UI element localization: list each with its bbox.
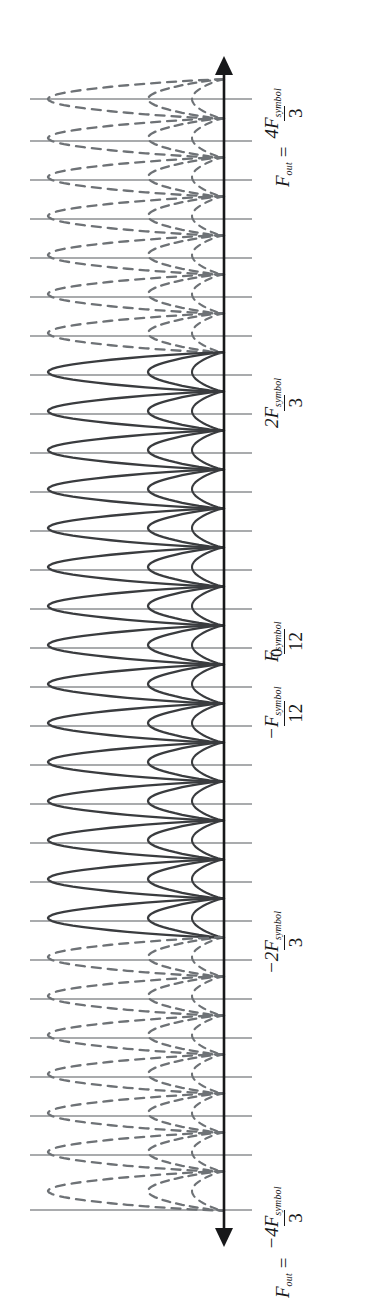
lobe-solid [148,781,224,821]
lobe-dashed [148,937,224,977]
lobe-solid [48,508,224,548]
axis-arrow-down-icon [215,1228,233,1247]
lobe-dashed [148,313,224,353]
lobe-solid [48,859,224,899]
lobe-solid [192,664,224,704]
lobe-solid [48,625,224,665]
lobe-solid [148,586,224,626]
lobe-dashed [48,313,224,353]
lobe-solid [192,352,224,392]
lobe-dashed [48,196,224,236]
lobe-solid [192,508,224,548]
lobe-solid [192,391,224,431]
lobe-solid [148,391,224,431]
lobe-dashed [48,118,224,158]
lobe-dashed [192,196,224,236]
curve-series-narrowest-lobes [192,79,224,1211]
lobe-dashed [148,274,224,314]
lobe-solid [48,781,224,821]
lobe-dashed [192,274,224,314]
lobe-dashed [192,1093,224,1133]
curve-series-wide-lobes [48,79,224,1211]
curve-series-narrow-lobes [148,79,224,1211]
lobe-dashed [48,937,224,977]
lobe-dashed [192,976,224,1016]
axis-arrow-up-icon [215,56,233,75]
lobe-solid [192,430,224,470]
lobe-dashed [192,118,224,158]
lobe-dashed [148,976,224,1016]
lobe-solid [148,703,224,743]
lobe-dashed [48,157,224,197]
lobe-solid [192,625,224,665]
lobe-dashed [48,1171,224,1211]
lobe-solid [48,820,224,860]
lobe-dashed [48,1093,224,1133]
lobe-solid [148,625,224,665]
lobe-solid [192,859,224,899]
lobe-dashed [192,235,224,275]
lobe-solid [192,703,224,743]
lobe-dashed [192,1054,224,1094]
lobe-solid [48,664,224,704]
lobe-solid [148,742,224,782]
lobe-dashed [48,1015,224,1055]
lobe-solid [48,898,224,938]
lobe-solid [148,898,224,938]
lobe-solid [192,781,224,821]
lobe-solid [48,391,224,431]
lobe-solid [192,586,224,626]
lobe-dashed [148,157,224,197]
lobe-solid [148,508,224,548]
lobe-dashed [192,1132,224,1172]
lobe-solid [148,469,224,509]
lobe-solid [192,820,224,860]
lobe-dashed [48,1054,224,1094]
lobe-dashed [148,1171,224,1211]
lobe-dashed [148,1093,224,1133]
lobe-dashed [148,1015,224,1055]
lobe-dashed [48,1132,224,1172]
lobe-solid [192,547,224,587]
lobe-solid [192,898,224,938]
lobe-solid [148,352,224,392]
lobe-solid [48,469,224,509]
lobe-dashed [192,313,224,353]
lobe-dashed [48,274,224,314]
lobe-solid [148,430,224,470]
lobe-dashed [192,937,224,977]
lobe-dashed [148,196,224,236]
lobe-solid [48,430,224,470]
lobe-dashed [192,1171,224,1211]
lobe-dashed [148,1132,224,1172]
gridline-group [30,99,252,1210]
lobe-solid [48,547,224,587]
lobe-dashed [148,1054,224,1094]
lobe-solid [148,664,224,704]
lobe-dashed [192,157,224,197]
lobe-solid [48,703,224,743]
lobe-solid [148,547,224,587]
lobe-solid [48,742,224,782]
lobe-dashed [148,118,224,158]
lobe-dashed [48,235,224,275]
lobe-solid [192,469,224,509]
lobe-dashed [48,976,224,1016]
lobe-solid [148,820,224,860]
lobe-solid [48,586,224,626]
lobe-solid [148,859,224,899]
lobe-dashed [192,1015,224,1055]
lobe-solid [48,352,224,392]
lobe-solid [192,742,224,782]
lobe-dashed [148,235,224,275]
